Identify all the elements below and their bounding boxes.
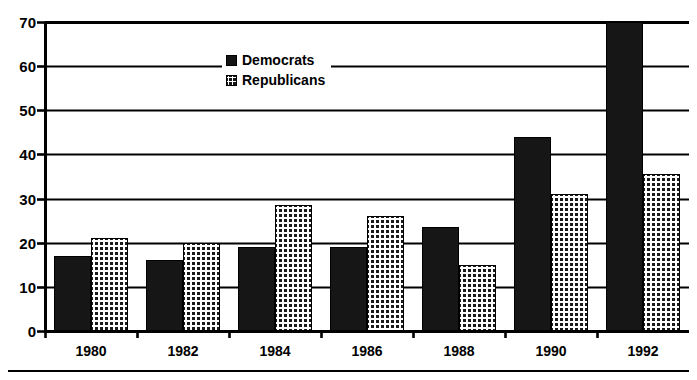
chart-legend: Democrats Republicans	[222, 48, 331, 93]
bar-democrats-1990	[514, 137, 551, 331]
footer-divider	[8, 370, 689, 372]
legend-label-democrats: Democrats	[242, 53, 314, 67]
bar-democrats-1986	[330, 247, 367, 331]
solid-square-icon	[226, 55, 237, 66]
bar-republicans-1984	[275, 205, 312, 331]
bar-republicans-1990	[551, 194, 588, 331]
bar-democrats-1984	[238, 247, 275, 331]
x-axis-tick-label: 1982	[167, 344, 198, 358]
x-axis-tick-label: 1988	[443, 344, 474, 358]
x-axis-tick-label: 1984	[259, 344, 290, 358]
x-axis-tick-label: 1992	[627, 344, 658, 358]
bar-republicans-1992	[643, 174, 680, 331]
bar-republicans-1982	[183, 243, 220, 331]
bars-layer	[0, 0, 697, 380]
x-axis-tick-label: 1980	[75, 344, 106, 358]
checkered-square-icon	[226, 75, 237, 86]
bar-democrats-1992	[606, 22, 643, 331]
legend-item-republicans: Republicans	[226, 70, 325, 90]
x-axis: 1980198219841986198819901992	[0, 330, 697, 360]
x-axis-tick-label: 1986	[351, 344, 382, 358]
bar-republicans-1986	[367, 216, 404, 331]
bar-democrats-1982	[146, 260, 183, 331]
legend-label-republicans: Republicans	[242, 73, 325, 87]
bar-democrats-1980	[54, 256, 91, 331]
bar-chart: 010203040506070 198019821984198619881990…	[0, 0, 697, 380]
bar-republicans-1980	[91, 238, 128, 331]
bar-democrats-1988	[422, 227, 459, 331]
x-axis-tick-label: 1990	[535, 344, 566, 358]
bar-republicans-1988	[459, 265, 496, 331]
legend-item-democrats: Democrats	[226, 50, 325, 70]
